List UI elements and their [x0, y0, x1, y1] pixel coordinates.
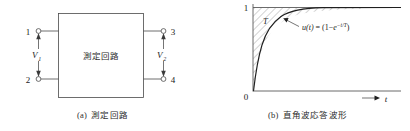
equation-open: (1−	[322, 23, 334, 32]
terminal-2-label: 2	[26, 75, 31, 85]
t-axis-arrow-head	[375, 96, 381, 101]
terminal-3-node	[161, 29, 166, 34]
equation-equals: =	[316, 23, 321, 32]
x-axis-label: t	[385, 94, 388, 104]
origin-label: 0	[244, 92, 249, 102]
terminal-2-node	[36, 77, 41, 82]
v2-arrow-head-up	[161, 33, 166, 39]
y-axis-top-label: 1	[244, 3, 249, 13]
terminal-4-node	[161, 77, 166, 82]
voltage-v1-subscript: 1	[38, 56, 41, 62]
caption-a-tag: (a)	[77, 110, 87, 120]
circuit-diagram-svg: 1 2 3 4 V 1 V 2 測定回路	[0, 0, 205, 108]
equation-close: )	[347, 23, 350, 32]
caption-panel-a: (a)測定回路	[0, 108, 205, 120]
figure-container: 1 2 3 4 V 1 V 2 測定回路 (a)測定回路	[0, 0, 410, 131]
caption-b-tag: (b)	[268, 110, 279, 120]
svg-text:u(t)=(1−e−t/T): u(t)=(1−e−t/T)	[302, 22, 350, 32]
v2-arrow-head-down	[161, 71, 166, 77]
equation-arg: (t)	[306, 23, 314, 32]
terminal-1-node	[36, 29, 41, 34]
caption-b-text: 直角波応答波形	[283, 110, 347, 120]
response-chart-svg: T 1 0 t u(t)=(1−e−t/T)	[205, 0, 410, 108]
v1-arrow-head-down	[36, 71, 41, 77]
curve-equation-annotation: u(t)=(1−e−t/T)	[302, 22, 350, 32]
panel-b-step-response-chart: T 1 0 t u(t)=(1−e−t/T) (b)直角波応答波形	[205, 0, 410, 131]
circuit-block-label: 測定回路	[83, 51, 119, 61]
caption-panel-b: (b)直角波応答波形	[205, 108, 410, 120]
caption-a-text: 測定回路	[91, 110, 128, 120]
terminal-1-label: 1	[26, 27, 31, 37]
terminal-4-label: 4	[171, 75, 176, 85]
panel-a-measurement-circuit: 1 2 3 4 V 1 V 2 測定回路 (a)測定回路	[0, 0, 205, 131]
v1-arrow-head-up	[36, 33, 41, 39]
terminal-3-label: 3	[171, 27, 176, 37]
annotation-leader-line	[286, 20, 300, 27]
hatched-region	[253, 8, 368, 92]
voltage-v2-subscript: 2	[163, 56, 166, 62]
